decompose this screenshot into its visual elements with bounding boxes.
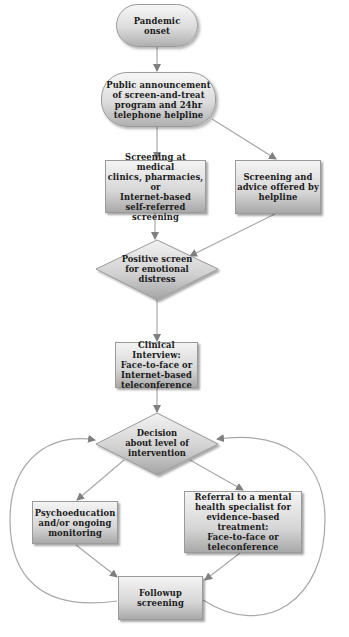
node-positive-screen: Positive screen for emotional distress: [108, 246, 206, 292]
node-label: Positive screen for emotional distress: [122, 254, 193, 284]
node-label: Decision about level of intervention: [125, 428, 189, 458]
edge-decision-to-psychoeducation: [77, 460, 124, 500]
node-label: Psychoeducation and/or ongoing monitorin…: [35, 508, 116, 538]
node-label: Public announcement of screen-and-treat …: [106, 80, 210, 120]
node-label: Pandemic onset: [134, 16, 181, 36]
node-label: Followup screening: [137, 588, 184, 608]
flowchart: Pandemic onset Public announcement of sc…: [0, 0, 349, 637]
node-public-announcement: Public announcement of screen-and-treat …: [101, 72, 216, 127]
node-screening-helpline: Screening and advice offered by helpline: [235, 160, 321, 214]
node-followup-screening: Followup screening: [118, 576, 203, 620]
edge-referral-to-followup: [205, 553, 240, 580]
node-referral: Referral to a mental health specialist f…: [184, 491, 302, 553]
node-label: Clinical Interview: Face-to-face or Inte…: [116, 340, 197, 390]
node-label: Screening at medical clinics, pharmacies…: [106, 152, 205, 222]
node-decision: Decision about level of intervention: [108, 420, 206, 466]
edge-psychoeducation-to-followup: [76, 545, 117, 577]
node-clinical-interview: Clinical Interview: Face-to-face or Inte…: [115, 342, 198, 388]
node-pandemic-onset: Pandemic onset: [116, 4, 198, 47]
edge-announcement-to-helpline: [212, 119, 276, 159]
node-screening-medical: Screening at medical clinics, pharmacies…: [105, 160, 206, 213]
node-psychoeducation: Psychoeducation and/or ongoing monitorin…: [32, 501, 118, 544]
node-label: Screening and advice offered by helpline: [237, 172, 319, 202]
node-label: Referral to a mental health specialist f…: [194, 492, 291, 552]
